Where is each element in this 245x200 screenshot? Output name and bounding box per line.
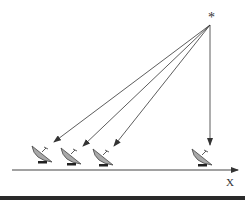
ray-2 <box>83 25 210 146</box>
antenna-dish-icon <box>192 149 212 167</box>
antenna-dish-icon <box>61 148 81 166</box>
antenna-dish-icon <box>32 146 52 164</box>
x-axis-label: X <box>226 176 234 188</box>
diagram-canvas: * X <box>0 0 245 200</box>
ray-1 <box>54 25 210 142</box>
antenna-dish-icon <box>93 149 113 167</box>
ray-3 <box>114 25 210 146</box>
bottom-border <box>0 196 245 200</box>
source-star: * <box>208 10 215 25</box>
